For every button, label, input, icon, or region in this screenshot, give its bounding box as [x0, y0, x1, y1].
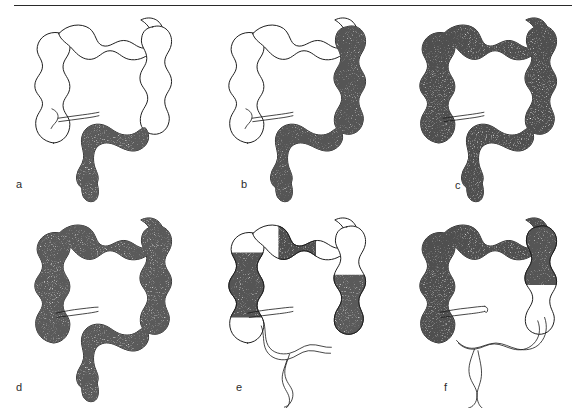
colon-distribution-figure: a b — [0, 0, 580, 411]
panel-d-diseased-whole-colon — [35, 218, 172, 402]
panel-f-colon-diagram — [387, 208, 580, 408]
panel-c-diseased-whole-colon — [420, 18, 557, 202]
panel-f-splenic-flexure-disease — [525, 226, 557, 334]
panel-c-svg — [387, 8, 580, 208]
panel-label-d: d — [16, 382, 22, 393]
panel-label-a: a — [16, 179, 22, 190]
panel-a-colon-diagram — [2, 8, 195, 208]
panel-label-f: f — [444, 382, 447, 393]
panel-e-svg — [196, 208, 389, 408]
panel-a-diseased-sigmoid-rectum — [77, 124, 149, 202]
panel-c-colon-diagram — [387, 8, 580, 208]
panel-label-c: c — [455, 180, 461, 191]
panel-label-e: e — [236, 382, 242, 393]
panel-d-svg — [2, 208, 195, 408]
panel-label-b: b — [241, 179, 247, 190]
panel-a-svg — [2, 8, 195, 208]
panel-d-colon-diagram — [2, 208, 195, 408]
panel-b-svg — [196, 8, 389, 208]
panel-a-normal-colon — [35, 18, 172, 143]
panel-f-svg — [387, 208, 580, 408]
panel-b-colon-diagram — [196, 8, 389, 208]
panel-e-small-bowel-and-rectum — [261, 320, 331, 408]
top-horizontal-rule — [14, 5, 572, 6]
panel-e-colon-diagram — [196, 208, 389, 408]
